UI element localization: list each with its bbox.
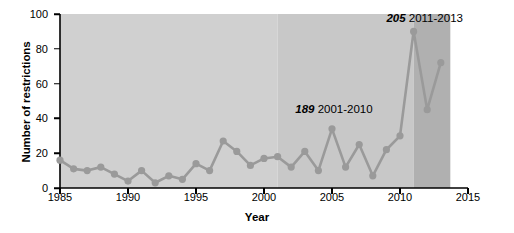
data-point-1999 [247,162,254,169]
data-point-1995 [192,160,199,167]
band-1985-2001 [60,14,278,188]
data-point-2000 [260,155,267,162]
data-point-1993 [165,172,172,179]
annotation-2001-2010-range: 2001-2010 [318,103,373,115]
data-point-1985 [56,157,63,164]
data-point-1996 [206,167,213,174]
plot-area [0,0,514,233]
data-point-2001 [274,153,281,160]
data-point-1992 [152,179,159,186]
data-point-2002 [288,164,295,171]
data-point-1998 [233,148,240,155]
data-point-1988 [97,164,104,171]
data-point-1994 [179,176,186,183]
band-2001-2011 [278,14,414,188]
data-point-2010 [396,132,403,139]
annotation-2001-2010-number: 189 [295,103,314,115]
data-point-2004 [315,167,322,174]
data-point-2003 [301,148,308,155]
data-point-2005 [328,125,335,132]
data-point-1989 [111,170,118,177]
data-point-2012 [424,106,431,113]
data-point-2013 [437,59,444,66]
data-point-2007 [356,141,363,148]
data-point-1997 [220,137,227,144]
data-point-2006 [342,164,349,171]
annotation-2011-2013-number: 205 [386,12,405,24]
data-point-1986 [70,165,77,172]
data-point-2011 [410,28,417,35]
data-point-2008 [369,172,376,179]
annotation-2011-2013: 205 2011-2013 [386,12,463,24]
data-point-1991 [138,167,145,174]
annotation-2001-2010: 189 2001-2010 [295,103,372,115]
data-point-2009 [383,146,390,153]
chart-figure: Number of restrictions Year 020406080100… [0,0,514,233]
data-point-1990 [124,177,131,184]
annotation-2011-2013-range: 2011-2013 [409,12,463,24]
data-point-1987 [84,167,91,174]
band-2011-2013 [414,14,451,188]
